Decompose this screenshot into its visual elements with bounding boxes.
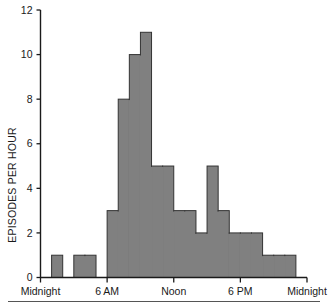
x-tick-label: 6 AM xyxy=(95,285,119,297)
x-tick-label: Midnight xyxy=(21,285,61,297)
bar-join-fill xyxy=(84,256,86,277)
bar xyxy=(163,166,174,277)
y-axis-title: EPISODES PER HOUR xyxy=(6,127,18,243)
bar-join-fill xyxy=(261,256,263,277)
bar xyxy=(118,99,129,277)
y-tick-label: 2 xyxy=(27,227,33,239)
bar xyxy=(207,166,218,277)
bar xyxy=(229,233,240,278)
bar xyxy=(174,211,185,278)
bar xyxy=(263,255,274,277)
bar-join-fill xyxy=(217,212,219,278)
y-tick-label: 4 xyxy=(27,182,33,194)
bar xyxy=(251,233,262,278)
bar-join-fill xyxy=(117,212,119,278)
bar xyxy=(140,32,151,277)
bar xyxy=(85,255,96,277)
bar xyxy=(196,233,207,278)
bar-join-fill xyxy=(173,212,175,278)
bar-join-fill xyxy=(272,256,274,277)
histogram-figure: EPISODES PER HOUR 024681012 Midnight6 AM… xyxy=(0,0,328,305)
bar-join-fill xyxy=(184,212,186,278)
episodes-per-hour-histogram: EPISODES PER HOUR 024681012 Midnight6 AM… xyxy=(0,0,328,305)
bar xyxy=(129,55,140,278)
bar xyxy=(274,255,285,277)
y-tick-label: 0 xyxy=(27,271,33,283)
bar xyxy=(52,255,63,277)
y-tick-label: 6 xyxy=(27,137,33,149)
bar xyxy=(107,211,118,278)
x-tick-label: 6 PM xyxy=(228,285,253,297)
bar xyxy=(185,211,196,278)
y-tick-label: 8 xyxy=(27,93,33,105)
bar-join-fill xyxy=(150,167,152,278)
bar-join-fill xyxy=(228,234,230,278)
bar xyxy=(218,211,229,278)
bar-join-fill xyxy=(195,234,197,278)
bar-join-fill xyxy=(128,100,130,277)
bar xyxy=(152,166,163,277)
y-tick-label: 10 xyxy=(21,48,33,60)
y-tick-label: 12 xyxy=(21,4,33,16)
bar-join-fill xyxy=(239,234,241,278)
bar xyxy=(74,255,85,277)
bar-join-fill xyxy=(139,55,141,277)
bar-join-fill xyxy=(284,256,286,277)
bar-join-fill xyxy=(161,167,163,278)
bar xyxy=(285,255,296,277)
x-tick-label: Noon xyxy=(161,285,186,297)
bar xyxy=(240,233,251,278)
bar-join-fill xyxy=(250,234,252,278)
x-tick-label: Midnight xyxy=(287,285,327,297)
bar-join-fill xyxy=(206,234,208,278)
